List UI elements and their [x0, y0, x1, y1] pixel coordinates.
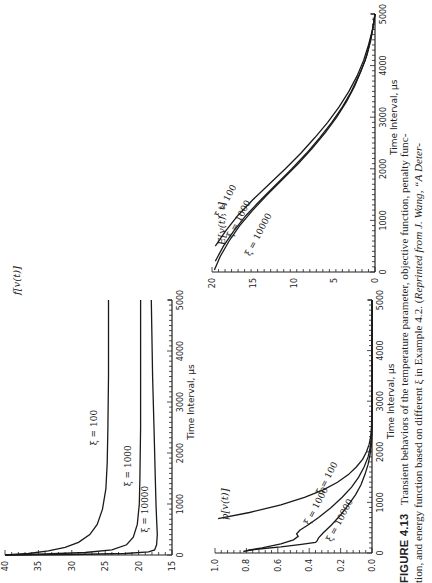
time-tick-label: 0	[376, 550, 385, 555]
time-tick-label: 3000	[379, 107, 388, 127]
figure-caption: FIGURE 4.13 Transient behaviors of the t…	[398, 0, 425, 583]
value-axis-title: f[v(t)]	[11, 266, 22, 296]
caption-line-1: FIGURE 4.13 Transient behaviors of the t…	[398, 0, 412, 583]
time-tick-label: 4000	[379, 55, 388, 75]
caption-text-1: Transient behaviors of the temperature p…	[398, 134, 410, 506]
value-tick-label: 0.4	[305, 559, 314, 572]
series-curve	[214, 14, 375, 270]
time-tick-label: 1000	[176, 494, 185, 514]
time-tick-label: 5000	[376, 290, 385, 310]
series-label: ξ = 100	[89, 410, 99, 446]
value-tick-label: 25	[101, 561, 110, 571]
caption-text-2a: tion, and energy function based on diffe…	[412, 299, 424, 583]
time-tick-label: 1000	[376, 492, 385, 512]
value-tick-label: 0.0	[368, 559, 377, 572]
series-label: ξ = 10000	[243, 211, 274, 257]
caption-line-2: tion, and energy function based on diffe…	[412, 0, 426, 583]
value-tick-label: 15	[168, 561, 177, 571]
value-tick-label: 0.6	[274, 559, 283, 572]
caption-text-2b: Reprinted from J. Wang, “A Deter-	[412, 143, 424, 299]
time-tick-label: 3000	[176, 392, 185, 412]
time-tick-label: 5000	[176, 290, 185, 310]
value-tick-label: 10	[290, 278, 299, 288]
time-tick-label: 2000	[376, 442, 385, 462]
energy-function-plot: 05101520010002000300040005000Time Interv…	[208, 4, 399, 288]
series-curve	[5, 300, 157, 555]
series-curve	[218, 300, 372, 519]
figure-label: FIGURE 4.13	[398, 514, 410, 583]
objective-function-plot: 152025303540010002000300040005000Time In…	[1, 266, 196, 571]
time-axis-title: Time Interval, µs	[386, 363, 396, 440]
time-tick-label: 2000	[176, 443, 185, 463]
value-tick-label: 1.0	[211, 559, 220, 572]
value-tick-label: 30	[68, 561, 77, 571]
value-tick-label: 0.2	[337, 559, 346, 572]
time-tick-label: 4000	[176, 341, 185, 361]
figure-4-13: 152025303540010002000300040005000Time In…	[0, 0, 432, 583]
series-label: ξ = 1000	[123, 445, 133, 486]
time-tick-label: 0	[176, 552, 185, 557]
value-tick-label: 35	[34, 561, 43, 571]
time-tick-label: 2000	[379, 159, 388, 179]
time-tick-label: 5000	[379, 4, 388, 24]
time-tick-label: 4000	[376, 340, 385, 360]
series-curve	[5, 300, 141, 555]
value-tick-label: 15	[249, 278, 258, 288]
value-tick-label: 5	[330, 278, 339, 283]
value-tick-label: 40	[1, 561, 10, 571]
value-tick-label: 0	[371, 278, 380, 283]
value-tick-label: 0.8	[242, 559, 251, 572]
value-axis-title: p[v(t)]	[219, 488, 230, 520]
value-tick-label: 20	[208, 278, 217, 288]
time-axis-title: Time Interval, µs	[186, 364, 196, 441]
time-tick-label: 1000	[379, 210, 388, 230]
time-tick-label: 0	[379, 269, 388, 274]
series-label: ξ = 10000	[324, 497, 355, 543]
series-label: ξ = 10000	[140, 485, 150, 532]
time-tick-label: 3000	[376, 391, 385, 411]
value-tick-label: 20	[135, 561, 144, 571]
penalty-function-plot: 0.00.20.40.60.81.0010002000300040005000T…	[211, 290, 396, 572]
